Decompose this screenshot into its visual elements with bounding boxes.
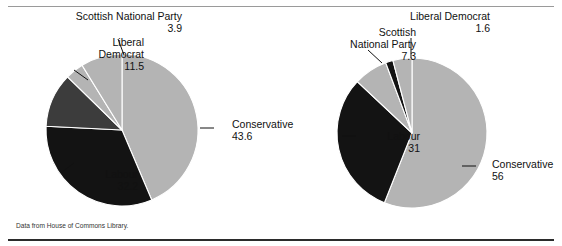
slice-label-text: Liberal Democrat1.6 — [410, 10, 490, 34]
slice-label-text: Conservative43.6 — [232, 118, 293, 142]
slice-label-text: Scottish National Party3.9 — [76, 10, 183, 34]
slice-label-text: Conservative56 — [492, 158, 553, 182]
source-note-text: Data from House of Commons Library. — [16, 222, 128, 229]
pie-charts-svg: Conservative43.6Labour32.2LiberalDemocra… — [0, 0, 562, 246]
slice-label-text: ScottishNational Party7.3 — [350, 26, 417, 62]
source-note: Data from House of Commons Library. — [16, 214, 128, 232]
leader-line — [368, 50, 382, 63]
figure-container: Conservative43.6Labour32.2LiberalDemocra… — [0, 0, 562, 246]
